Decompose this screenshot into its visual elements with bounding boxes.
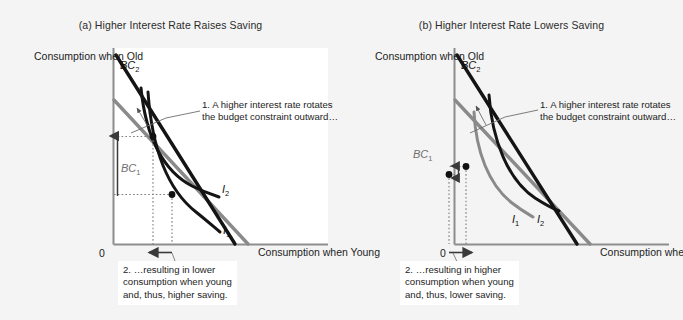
panel-b-curves — [455, 55, 590, 244]
panel-b-note-2: 2. …resulting in higher consumption when… — [400, 261, 519, 305]
curve-label-bc1-panel-a: BC1 — [121, 162, 140, 177]
panel-a-curves — [114, 55, 248, 244]
equilibrium-point-bc1-panel-a — [169, 191, 176, 198]
curve-label-bc2-panel-a: BC2 — [120, 59, 139, 74]
equilibrium-point-bc2-panel-a — [150, 133, 157, 140]
equilibrium-point-bc1-panel-b — [446, 171, 453, 178]
panel-a-x-axis-label: Consumption when Young — [258, 246, 338, 259]
panel-b-origin-label: 0 — [440, 247, 446, 259]
panel-a-y-axis-label: Consumption when Old — [34, 50, 108, 63]
curve-bc2-panel-a — [116, 55, 235, 244]
figure-vector-layer — [0, 0, 683, 320]
curve-label-bc2-panel-b: BC2 — [461, 59, 480, 74]
panel-a-origin-label: 0 — [99, 247, 105, 259]
curve-label-i1-panel-a: I1 — [223, 224, 230, 239]
panel-a-note-2: 2. …resulting in lower consumption when … — [118, 261, 237, 305]
curve-label-i2-panel-a: I2 — [222, 183, 229, 198]
equilibrium-point-bc2-panel-b — [463, 163, 470, 170]
panel-b-note-1: 1. A higher interest rate rotates the bu… — [540, 99, 676, 124]
panel-b-x-axis-label: Consumption when Young — [600, 246, 680, 259]
curve-label-i2-panel-b: I2 — [537, 213, 544, 228]
panel-a-note-1: 1. A higher interest rate rotates the bu… — [202, 99, 338, 124]
curve-label-bc1-panel-b: BC1 — [413, 148, 432, 163]
panel-b-y-axis-label: Consumption when Old — [375, 50, 449, 63]
panel-b-guides — [449, 167, 466, 245]
figure-container: (a) Higher Interest Rate Raises Saving (… — [0, 0, 683, 320]
curve-label-i1-panel-b: I1 — [512, 213, 519, 228]
